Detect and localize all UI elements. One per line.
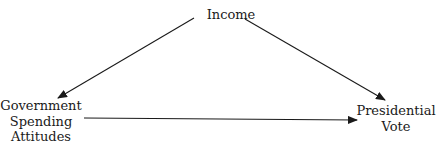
arrow-income-to-government-spending [58,18,194,98]
path-diagram: Income Government Spending Attitudes Pre… [0,0,437,150]
node-government-spending-attitudes: Government Spending Attitudes [0,98,82,145]
arrow-income-to-presidential-vote [245,19,385,100]
node-gov-line-1: Government [0,98,82,114]
node-presidential-vote: Presidential Vote [355,103,437,134]
node-gov-line-3: Attitudes [0,129,82,145]
node-income: Income [196,7,266,23]
node-vote-line-1: Presidential [355,103,437,119]
node-income-label: Income [196,7,266,23]
arrow-government-spending-to-presidential-vote [84,118,357,120]
node-vote-line-2: Vote [355,119,437,135]
node-gov-line-2: Spending [0,114,82,130]
